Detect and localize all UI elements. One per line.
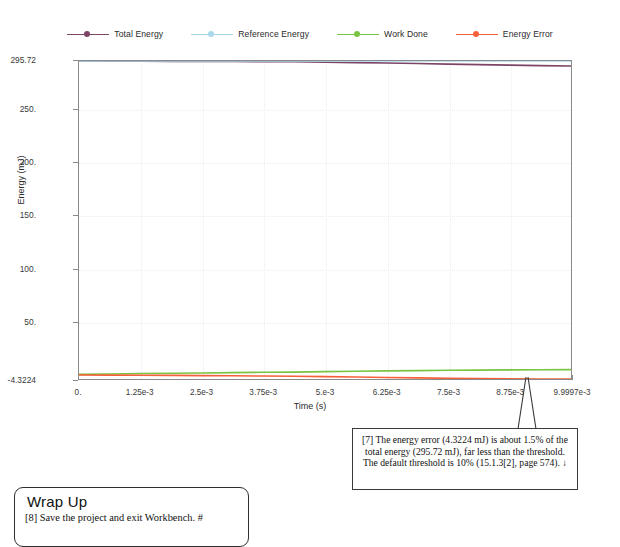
x-tick-label: 7.5e-3 bbox=[437, 388, 460, 397]
x-tick-label: 3.75e-3 bbox=[249, 388, 277, 397]
y-tick-label: -4.3224 bbox=[8, 375, 36, 385]
y-tick-label: 50. bbox=[24, 317, 36, 327]
x-tick-label: 5.e-3 bbox=[316, 388, 335, 397]
x-tick-label: 6.25e-3 bbox=[373, 388, 401, 397]
wrap-up-panel: Wrap Up [8] Save the project and exit Wo… bbox=[14, 487, 249, 547]
y-tick-label: 150. bbox=[20, 210, 36, 220]
x-tick-mark bbox=[572, 375, 573, 380]
callout-note: [7] The energy error (4.3224 mJ) is abou… bbox=[352, 428, 578, 490]
wrap-up-title: Wrap Up bbox=[27, 493, 238, 510]
x-tick-label: 8.75e-3 bbox=[496, 388, 524, 397]
x-tick-label: 1.25e-3 bbox=[126, 388, 154, 397]
y-tick-label: 100. bbox=[20, 264, 36, 274]
plot-frame bbox=[78, 60, 572, 380]
plot-series-svg bbox=[79, 61, 571, 379]
wrap-up-step-text: [8] Save the project and exit Workbench.… bbox=[25, 512, 238, 523]
y-tick-label: 295.72 bbox=[10, 55, 36, 65]
y-tick-label: 200. bbox=[20, 157, 36, 167]
y-tick-label: 250. bbox=[20, 104, 36, 114]
x-tick-label: 9.9997e-3 bbox=[554, 388, 591, 397]
x-axis-title: Time (s) bbox=[0, 401, 620, 411]
series-line-energy-error bbox=[79, 375, 571, 379]
y-tick-mark bbox=[73, 380, 78, 381]
x-tick-label: 0. bbox=[75, 388, 82, 397]
x-tick-label: 2.5e-3 bbox=[190, 388, 213, 397]
energy-chart: Energy (mJ) Time (s) 295.72250.200.150.1… bbox=[0, 0, 620, 420]
series-line-work-done bbox=[79, 370, 571, 375]
